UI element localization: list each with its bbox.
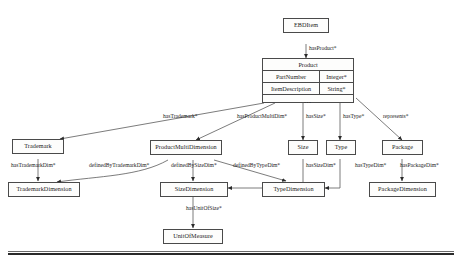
node-type-label: Type: [335, 144, 348, 151]
product-attribute-row: PartNumber Integer*: [263, 71, 353, 83]
edge-label-definedBySizeDim: definedBySizeDim*: [171, 163, 217, 169]
node-packagedimension-label: PackageDimension: [378, 186, 427, 193]
node-sizedimension[interactable]: SizeDimension: [160, 182, 228, 197]
node-trademark[interactable]: Trademark: [12, 139, 64, 154]
edge-label-hasTypeDim: hasTypeDim*: [355, 163, 386, 169]
product-attribute-name: ItemDescription: [263, 83, 320, 94]
node-unitofmeasure-label: UnitOfMeasure: [173, 233, 213, 240]
node-product[interactable]: Product PartNumber Integer* ItemDescript…: [262, 58, 354, 103]
product-attribute-type: Integer*: [320, 71, 353, 82]
node-productmultidimension[interactable]: ProductMultiDimension: [150, 140, 222, 155]
product-more-label: ...: [263, 95, 353, 106]
node-package-label: Package: [392, 144, 413, 151]
node-unitofmeasure[interactable]: UnitOfMeasure: [163, 229, 223, 244]
node-trademarkdimension[interactable]: TrademarkDimension: [8, 182, 80, 197]
node-sizedimension-label: SizeDimension: [175, 186, 214, 193]
page-rule-thick: [8, 253, 454, 255]
edge-label-hasSizeDim: hasSizeDim*: [306, 163, 336, 169]
edge-hasProductMultiDim: [196, 103, 275, 140]
node-product-title: Product: [263, 59, 353, 71]
node-size-label: Size: [298, 144, 309, 151]
page-rule-thin: [8, 251, 454, 252]
product-attribute-type: String*: [320, 83, 353, 94]
uml-class-diagram: EBDItem Product PartNumber Integer* Item…: [0, 0, 462, 259]
node-trademarkdimension-label: TrademarkDimension: [16, 186, 71, 193]
node-size[interactable]: Size: [288, 140, 318, 155]
node-ebditem-label: EBDItem: [294, 22, 318, 29]
edge-label-definedByTrademarkDim: definedByTrademarkDim*: [89, 163, 149, 169]
product-more-row: ...: [263, 95, 353, 106]
edge-label-definedByTypeDim: definedByTypeDim*: [233, 163, 280, 169]
edge-hasTrademark: [60, 103, 264, 139]
edge-label-hasTrademarkDim: hasTrademarkDim*: [11, 163, 56, 169]
node-ebditem[interactable]: EBDItem: [283, 18, 329, 33]
node-packagedimension[interactable]: PackageDimension: [369, 182, 436, 197]
edge-label-hasTrademark: hasTrademark*: [163, 114, 198, 120]
edge-label-hasPackageDim: hasPackageDim*: [400, 163, 439, 169]
edge-label-hasType: hasType*: [343, 114, 364, 120]
node-trademark-label: Trademark: [24, 143, 51, 150]
product-attribute-name: PartNumber: [263, 71, 320, 82]
node-type[interactable]: Type: [326, 140, 356, 155]
node-typedimension[interactable]: TypeDimension: [262, 182, 325, 197]
edge-label-hasSize: hasSize*: [306, 114, 326, 120]
node-typedimension-label: TypeDimension: [273, 186, 313, 193]
product-attribute-row: ItemDescription String*: [263, 83, 353, 95]
edge-label-hasUnitOfSize: hasUnitOfSize*: [186, 206, 222, 212]
edge-layer: [0, 0, 462, 259]
edge-label-represents: represents*: [383, 114, 408, 120]
edge-label-hasProductMultiDim: hasProductMultiDim*: [237, 114, 287, 120]
node-productmultidimension-label: ProductMultiDimension: [155, 144, 216, 151]
edge-label-hasProduct: hasProduct*: [309, 46, 337, 52]
node-package[interactable]: Package: [382, 140, 423, 155]
